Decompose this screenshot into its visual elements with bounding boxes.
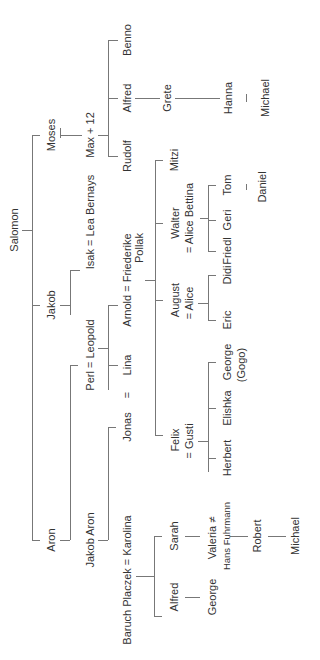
- person-jakob-aron: Jakob Aron: [84, 512, 96, 567]
- connector: [208, 458, 216, 459]
- person-lina: Lina: [121, 355, 133, 376]
- connector: [198, 441, 208, 442]
- person-aron: Aron: [45, 528, 57, 551]
- person-august: August: [169, 283, 181, 317]
- person-geri: Geri: [221, 210, 233, 231]
- connector: [108, 156, 118, 157]
- person-daniel: Daniel: [256, 171, 268, 202]
- connector: [108, 40, 118, 41]
- person-felix: Felix: [169, 428, 181, 451]
- connector: [175, 98, 220, 99]
- connector: [108, 98, 118, 99]
- connector: [230, 536, 248, 537]
- connector: [154, 536, 162, 537]
- person-gusti: = Gusti: [183, 423, 195, 458]
- person-pollak: Pollak: [133, 233, 145, 263]
- connector: [155, 300, 163, 301]
- person-hanna: Hanna: [222, 82, 234, 114]
- connector: [200, 218, 208, 219]
- person-michael-hanna: Michael: [259, 79, 271, 117]
- connector: [108, 305, 109, 390]
- connector: [135, 98, 160, 99]
- person-benno: Benno: [121, 24, 133, 56]
- connector: [60, 128, 61, 138]
- connector: [32, 135, 33, 540]
- person-didi: Didi: [221, 266, 233, 285]
- person-arnold-friederike: Arnold = Friederike: [121, 233, 133, 326]
- connector: [98, 348, 108, 349]
- connector: [108, 305, 118, 306]
- connector: [60, 135, 82, 136]
- connector: [155, 223, 163, 224]
- person-gogo: (Gogo): [235, 348, 247, 382]
- person-alice-bettina: = Alice Bettina: [183, 183, 195, 253]
- person-mitzi: Mitzi: [168, 149, 180, 172]
- connector: [32, 135, 40, 136]
- person-elishka: Elishka: [221, 390, 233, 425]
- person-isak-lea: Isak = Lea Bernays: [84, 175, 96, 269]
- connector: [70, 270, 80, 271]
- connector: [32, 540, 40, 541]
- person-alfred-aron: Alfred: [168, 583, 180, 612]
- connector: [98, 540, 108, 541]
- connector: [108, 365, 118, 366]
- connector: [70, 365, 78, 366]
- connector: [208, 275, 209, 320]
- person-max: Max + 12: [84, 112, 96, 158]
- marriage-sign: =: [121, 392, 133, 398]
- connector: [154, 616, 162, 617]
- connector: [208, 275, 216, 276]
- person-hans-fuhrmann: Hans Fuhrmann: [221, 502, 232, 570]
- person-michael-robert: Michael: [289, 517, 301, 555]
- connector: [32, 305, 40, 306]
- person-george: George: [206, 579, 218, 616]
- person-jonas: Jonas: [121, 412, 133, 441]
- connector: [208, 362, 209, 472]
- connector: [208, 362, 216, 363]
- person-walter: Walter: [169, 207, 181, 238]
- connector: [108, 427, 116, 428]
- connector: [246, 184, 247, 190]
- connector: [208, 185, 216, 186]
- connector: [208, 320, 216, 321]
- person-jakob: Jakob: [45, 290, 57, 319]
- connector: [155, 160, 156, 435]
- person-herbert: Herbert: [221, 440, 233, 477]
- connector: [108, 427, 109, 540]
- connector: [208, 220, 216, 221]
- connector: [268, 536, 286, 537]
- connector: [198, 303, 208, 304]
- person-valeria: Valeria ≠: [206, 517, 218, 560]
- connector: [60, 305, 70, 306]
- person-grete: Grete: [161, 84, 173, 112]
- connector: [22, 230, 32, 231]
- person-rudolf: Rudolf: [121, 140, 133, 172]
- person-sarah: Sarah: [168, 521, 180, 550]
- person-baruch-karolina: Baruch Placzek = Karolina: [121, 515, 133, 644]
- person-robert: Robert: [251, 519, 263, 552]
- connector: [70, 365, 71, 540]
- person-alfred-moses: Alfred: [121, 84, 133, 113]
- connector: [208, 251, 216, 252]
- connector: [145, 280, 155, 281]
- connector: [70, 305, 71, 315]
- connector: [136, 576, 154, 577]
- person-eric: Eric: [221, 311, 233, 330]
- connector: [185, 536, 200, 537]
- person-perl-leopold: Perl = Leopold: [84, 319, 96, 390]
- person-george-gogo: George: [221, 344, 233, 381]
- connector: [208, 185, 209, 251]
- connector: [155, 160, 163, 161]
- person-tom: Tom: [221, 175, 233, 196]
- connector: [246, 94, 247, 102]
- connector: [185, 597, 200, 598]
- connector: [155, 435, 163, 436]
- connector: [98, 135, 108, 136]
- connector: [154, 536, 155, 616]
- connector: [60, 540, 70, 541]
- person-alice: = Alice: [183, 287, 195, 320]
- connector: [208, 408, 216, 409]
- person-moses: Moses: [45, 119, 57, 151]
- person-salomon: Salomon: [8, 208, 20, 251]
- connector: [70, 270, 71, 305]
